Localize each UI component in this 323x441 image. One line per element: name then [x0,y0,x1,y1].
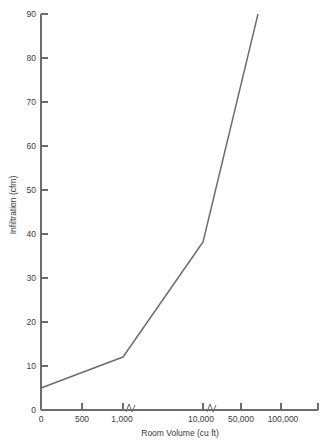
y-tick-label-60: 60 [27,141,37,151]
infiltration-vs-room-volume-chart: 90 80 70 60 50 40 30 20 10 0 Infiltratio… [0,0,323,441]
x-tick-label-0: 0 [39,414,44,424]
x-tick-label-1000: 1,000 [111,414,133,424]
y-tick-label-20: 20 [27,317,37,327]
y-tick-label-90: 90 [27,9,37,19]
x-tick-label-10000: 10,000 [188,414,214,424]
y-tick-label-70: 70 [27,97,37,107]
y-tick-label-10: 10 [27,361,37,371]
x-axis-title: Room Volume (cu ft) [141,428,219,438]
x-tick-label-50000: 50,000 [228,414,254,424]
y-axis-title: Infiltration (cfm) [8,176,18,235]
y-tick-label-0: 0 [31,405,36,415]
chart-container: 90 80 70 60 50 40 30 20 10 0 Infiltratio… [0,0,323,441]
x-tick-label-500: 500 [75,414,89,424]
y-tick-label-50: 50 [27,185,37,195]
y-tick-label-80: 80 [27,53,37,63]
y-tick-label-40: 40 [27,229,37,239]
chart-background [0,0,323,441]
y-tick-label-30: 30 [27,273,37,283]
x-tick-label-100000: 100,000 [268,414,299,424]
